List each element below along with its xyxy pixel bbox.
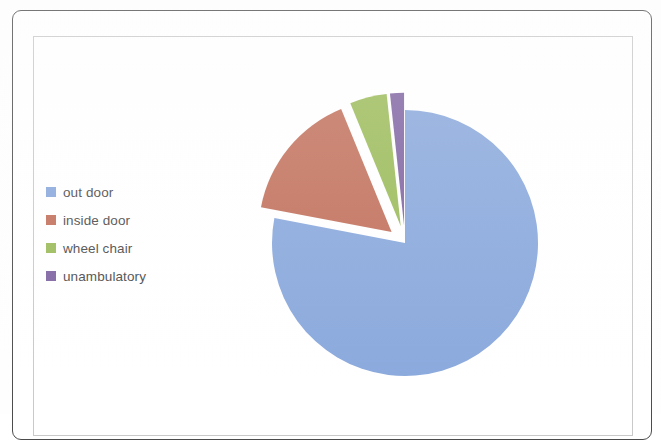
legend-item-wheel-chair[interactable]: wheel chair	[46, 234, 216, 262]
legend-label-out-door: out door	[63, 185, 113, 200]
legend-label-unambulatory: unambulatory	[63, 269, 146, 284]
legend-swatch-inside-door	[46, 215, 56, 225]
pie-slice-group	[261, 93, 538, 376]
legend-swatch-out-door	[46, 187, 56, 197]
legend-swatch-wheel-chair	[46, 243, 56, 253]
legend-swatch-unambulatory	[46, 271, 56, 281]
legend-label-inside-door: inside door	[63, 213, 130, 228]
legend-item-inside-door[interactable]: inside door	[46, 206, 216, 234]
chart-legend: out door inside door wheel chair unambul…	[46, 178, 216, 290]
legend-label-wheel-chair: wheel chair	[63, 241, 132, 256]
legend-item-out-door[interactable]: out door	[46, 178, 216, 206]
legend-item-unambulatory[interactable]: unambulatory	[46, 262, 216, 290]
